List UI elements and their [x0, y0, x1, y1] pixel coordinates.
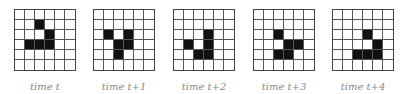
dead-cell	[55, 30, 65, 40]
dead-cell	[144, 50, 154, 60]
dead-cell	[94, 30, 104, 40]
dead-cell	[94, 40, 104, 50]
dead-cell	[144, 20, 154, 30]
dead-cell	[204, 20, 214, 30]
dead-cell	[214, 50, 224, 60]
live-cell	[35, 40, 45, 50]
dead-cell	[104, 50, 114, 60]
dead-cell	[333, 20, 343, 30]
dead-cell	[383, 10, 393, 20]
dead-cell	[284, 60, 294, 70]
dead-cell	[353, 20, 363, 30]
dead-cell	[363, 60, 373, 70]
dead-cell	[254, 20, 264, 30]
dead-cell	[333, 40, 343, 50]
cell-grid	[14, 9, 76, 71]
dead-cell	[104, 60, 114, 70]
dead-cell	[224, 40, 234, 50]
dead-cell	[124, 20, 134, 30]
dead-cell	[333, 60, 343, 70]
dead-cell	[45, 50, 55, 60]
live-cell	[35, 20, 45, 30]
dead-cell	[383, 40, 393, 50]
dead-cell	[204, 60, 214, 70]
dead-cell	[114, 30, 124, 40]
live-cell	[45, 40, 55, 50]
dead-cell	[174, 20, 184, 30]
live-cell	[204, 40, 214, 50]
live-cell	[194, 50, 204, 60]
dead-cell	[55, 40, 65, 50]
live-cell	[114, 40, 124, 50]
time-label: time t	[4, 81, 86, 92]
cell-grid	[253, 9, 315, 71]
dead-cell	[214, 20, 224, 30]
dead-cell	[55, 60, 65, 70]
dead-cell	[15, 20, 25, 30]
dead-cell	[15, 60, 25, 70]
dead-cell	[373, 10, 383, 20]
dead-cell	[264, 30, 274, 40]
dead-cell	[304, 10, 314, 20]
dead-cell	[274, 40, 284, 50]
dead-cell	[35, 50, 45, 60]
live-cell	[184, 40, 194, 50]
dead-cell	[35, 60, 45, 70]
dead-cell	[383, 30, 393, 40]
dead-cell	[254, 40, 264, 50]
dead-cell	[94, 20, 104, 30]
time-label: time t+4	[322, 81, 400, 92]
dead-cell	[184, 60, 194, 70]
live-cell	[204, 50, 214, 60]
dead-cell	[45, 10, 55, 20]
dead-cell	[383, 60, 393, 70]
dead-cell	[214, 60, 224, 70]
dead-cell	[264, 10, 274, 20]
dead-cell	[304, 40, 314, 50]
dead-cell	[284, 10, 294, 20]
dead-cell	[55, 20, 65, 30]
dead-cell	[35, 30, 45, 40]
dead-cell	[383, 20, 393, 30]
dead-cell	[114, 10, 124, 20]
dead-cell	[304, 20, 314, 30]
dead-cell	[55, 50, 65, 60]
dead-cell	[144, 10, 154, 20]
dead-cell	[174, 60, 184, 70]
dead-cell	[224, 20, 234, 30]
dead-cell	[373, 30, 383, 40]
live-cell	[353, 50, 363, 60]
dead-cell	[383, 50, 393, 60]
dead-cell	[55, 10, 65, 20]
dead-cell	[274, 10, 284, 20]
dead-cell	[134, 10, 144, 20]
dead-cell	[353, 60, 363, 70]
dead-cell	[174, 40, 184, 50]
dead-cell	[114, 60, 124, 70]
dead-cell	[15, 10, 25, 20]
dead-cell	[333, 30, 343, 40]
dead-cell	[124, 60, 134, 70]
dead-cell	[134, 60, 144, 70]
dead-cell	[65, 30, 75, 40]
cell-grid	[332, 9, 394, 71]
dead-cell	[294, 20, 304, 30]
dead-cell	[214, 10, 224, 20]
dead-cell	[124, 50, 134, 60]
dead-cell	[264, 40, 274, 50]
cell-grid	[173, 9, 235, 71]
dead-cell	[25, 20, 35, 30]
dead-cell	[214, 40, 224, 50]
dead-cell	[104, 40, 114, 50]
dead-cell	[363, 10, 373, 20]
dead-cell	[373, 60, 383, 70]
live-cell	[45, 30, 55, 40]
dead-cell	[343, 10, 353, 20]
dead-cell	[25, 30, 35, 40]
dead-cell	[294, 30, 304, 40]
dead-cell	[343, 50, 353, 60]
dead-cell	[343, 40, 353, 50]
dead-cell	[134, 40, 144, 50]
live-cell	[284, 40, 294, 50]
dead-cell	[254, 30, 264, 40]
